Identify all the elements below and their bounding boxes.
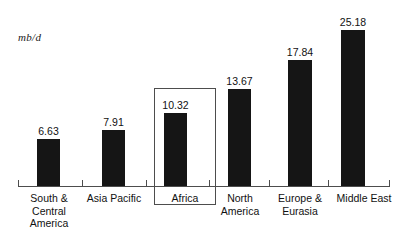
- bar-value-label: 7.91: [103, 116, 123, 128]
- category-label: South & Central America: [18, 192, 80, 230]
- bar-value-label: 6.63: [38, 125, 58, 137]
- category-label: North America: [209, 192, 271, 217]
- bar-rect: [288, 60, 312, 186]
- bar-group: 6.63: [37, 125, 60, 186]
- bar-group: 13.67: [228, 75, 251, 186]
- category-label: Europe & Eurasia: [269, 192, 331, 217]
- bar-rect: [341, 30, 365, 186]
- bar-value-label: 17.84: [287, 46, 313, 58]
- bar-value-label: 13.67: [226, 75, 252, 87]
- bar-group: 17.84: [288, 46, 312, 186]
- bar-rect: [37, 139, 60, 186]
- category-label: Middle East: [331, 192, 397, 205]
- plot-area: 6.637.9110.3213.6717.8425.18 South & Cen…: [0, 0, 403, 240]
- bar-rect: [102, 130, 125, 186]
- bar-group: 25.18: [341, 16, 365, 186]
- bar-rect: [228, 89, 251, 186]
- highlight-box-africa: [154, 88, 216, 205]
- bar-value-label: 25.18: [340, 16, 366, 28]
- bar-group: 7.91: [102, 116, 125, 186]
- bar-chart: mb/d 6.637.9110.3213.6717.8425.18 South …: [0, 0, 403, 240]
- category-label: Asia Pacific: [83, 192, 145, 205]
